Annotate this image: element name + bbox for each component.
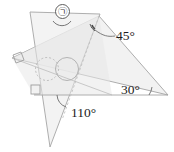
geometry-canvas: [0, 0, 174, 152]
geometry-figure: ㉠ 45° 30° 110°: [0, 0, 174, 152]
angle-label-45: 45°: [116, 29, 135, 43]
angle-label-110: 110°: [71, 106, 96, 120]
angle-label-unknown-text: ㉠: [55, 4, 70, 19]
angle-label-30: 30°: [121, 83, 140, 97]
angle-label-unknown: ㉠: [54, 3, 71, 20]
